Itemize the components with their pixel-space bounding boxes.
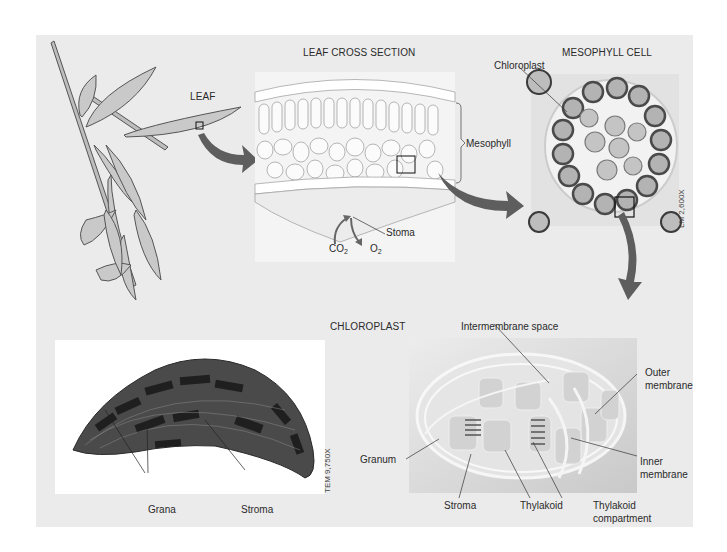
leaf-label: LEAF — [190, 91, 215, 103]
chloroplast-title: CHLOROPLAST — [330, 321, 406, 333]
stoma-label: Stoma — [386, 227, 415, 239]
diagram-stroma-label: Stroma — [444, 500, 476, 512]
outer-membrane-label-line1: Outer — [645, 367, 670, 379]
leaf-sprig-illustration — [36, 35, 256, 315]
thylakoid-compartment-label-line2: compartment — [593, 513, 651, 525]
thylakoid-compartment-label-line1: Thylakoid — [593, 500, 636, 512]
arrow-to-chloroplast — [612, 212, 652, 302]
arrow-to-mesophyll-cell — [438, 173, 528, 223]
chloroplast-diagram-illustration — [409, 338, 637, 493]
tem-stroma-label: Stroma — [241, 504, 273, 516]
leaf-cross-section-title: LEAF CROSS SECTION — [303, 47, 415, 59]
lm-magnification-label: LM 2,600X — [677, 189, 686, 228]
o2-label: O2 — [370, 243, 382, 256]
mesophyll-cell-title: MESOPHYLL CELL — [562, 47, 652, 59]
tem-magnification-label: TEM 9,750X — [323, 449, 332, 493]
grana-label: Grana — [148, 504, 176, 516]
intermembrane-space-label: Intermembrane space — [461, 321, 558, 333]
mesophyll-cell-micrograph — [531, 74, 679, 226]
granum-label: Granum — [360, 454, 396, 466]
outer-membrane-label-line2: membrane — [645, 380, 693, 392]
mesophyll-brace — [456, 103, 466, 183]
co2-label: CO2 — [329, 243, 348, 256]
thylakoid-label: Thylakoid — [520, 500, 563, 512]
inner-membrane-label-line1: Inner — [640, 456, 663, 468]
chloroplast-tem-micrograph — [55, 340, 325, 494]
mesophyll-label: Mesophyll — [466, 138, 511, 150]
leaf-cross-section-illustration — [255, 72, 455, 262]
inner-membrane-label-line2: membrane — [640, 469, 688, 481]
